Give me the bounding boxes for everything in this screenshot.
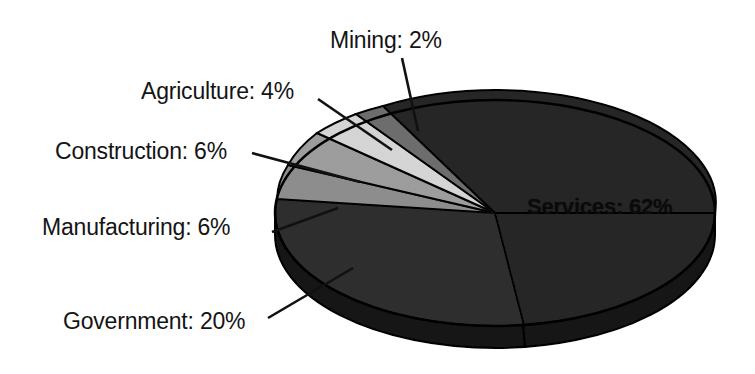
slice-label-government: Government: 20% [63, 310, 245, 333]
slice-label-construction: Construction: 6% [55, 140, 227, 163]
pie-chart: Mining: 2% Agriculture: 4% Construction:… [0, 0, 755, 374]
slice-label-agriculture: Agriculture: 4% [141, 80, 294, 103]
slice-label-manufacturing: Manufacturing: 6% [42, 216, 230, 239]
slice-services [495, 213, 715, 325]
slice-label-services: Services: 62% [527, 196, 672, 218]
slice-label-mining: Mining: 2% [330, 29, 442, 52]
